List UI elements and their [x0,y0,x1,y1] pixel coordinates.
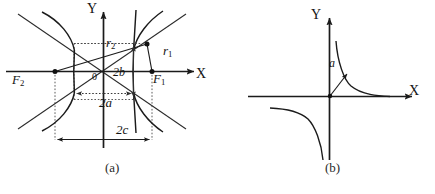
vertex-distance-label: a [329,57,335,69]
panel-b-graphics [248,18,412,160]
panel-a-graphics [6,10,194,148]
focal-radius-r2-label: r2 [106,36,115,51]
x-axis-label-a: X [196,67,206,81]
figure-root: Y X 0 F2 F1 r1 r2 2b 2a 2c Y X a (a) (b) [0,0,435,194]
focus-left-point [53,69,58,74]
x-axis-label-b: X [409,84,419,98]
y-axis-label-b: Y [311,8,321,22]
hyperbola-left-upper-tail [42,12,74,50]
vertex-distance-arrow [330,74,347,96]
hyperbola-right-lower-tail [134,93,163,132]
curve-point-p [145,42,150,47]
r2-subscript: 2 [111,41,115,51]
y-axis-label-a: Y [87,2,97,16]
dimension-2c-label: 2c [116,123,128,136]
rect-hyperbola-branch-q1 [336,41,390,97]
focus-left-subscript: 2 [20,78,24,88]
focus-left-label: F2 [12,73,24,88]
figure-canvas [0,0,435,194]
focus-right-letter: F [153,71,161,86]
origin-label-a: 0 [92,72,97,82]
focal-radius-r1-line [147,44,152,72]
rect-hyperbola-branch-q3 [270,108,323,160]
hyperbola-left-branch [74,50,75,93]
dimension-2b-label: 2b [113,66,125,78]
caption-panel-b: (b) [325,161,340,174]
r1-subscript: 1 [168,49,172,59]
dimension-2a-label: 2a [99,96,112,109]
caption-panel-a: (a) [105,161,119,174]
focus-right-label: F1 [153,72,165,87]
focus-right-subscript: 1 [161,77,165,87]
origin-point-b [328,94,332,98]
hyperbola-left-lower-tail [42,93,74,131]
focus-left-letter: F [12,72,20,87]
focal-radius-r1-label: r1 [163,44,172,59]
